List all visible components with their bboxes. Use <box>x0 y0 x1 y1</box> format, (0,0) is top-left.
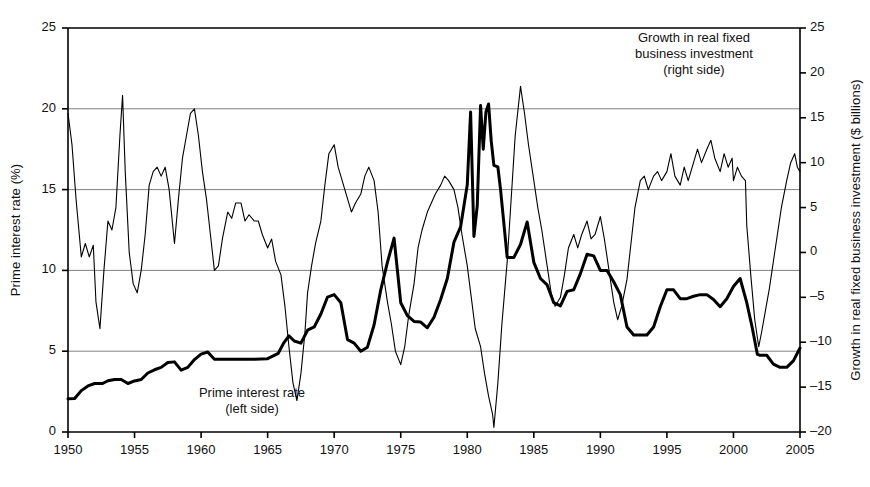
prime-annotation-line-2: (left side) <box>172 401 332 417</box>
series-line-1 <box>68 86 800 427</box>
x-tick-2000: 2000 <box>708 442 758 457</box>
x-tick-2005: 2005 <box>775 442 825 457</box>
x-tick-1960: 1960 <box>176 442 226 457</box>
prime-series-annotation: Prime interest rate (left side) <box>172 385 332 417</box>
y-tick-right-3: –5 <box>810 288 854 303</box>
x-tick-1975: 1975 <box>376 442 426 457</box>
series-line-0 <box>68 104 800 399</box>
y-tick-right-4: 0 <box>810 243 854 258</box>
y-tick-left-5: 5 <box>16 342 56 357</box>
y-tick-right-6: 10 <box>810 154 854 169</box>
x-tick-1985: 1985 <box>509 442 559 457</box>
data-series-group <box>68 86 800 427</box>
y-tick-left-15: 15 <box>16 181 56 196</box>
x-tick-1995: 1995 <box>642 442 692 457</box>
x-tick-1950: 1950 <box>43 442 93 457</box>
y-tick-left-25: 25 <box>16 19 56 34</box>
y-tick-right-7: 15 <box>810 109 854 124</box>
y-tick-right-2: –10 <box>810 333 854 348</box>
x-tick-1965: 1965 <box>243 442 293 457</box>
y-tick-right-9: 25 <box>810 19 854 34</box>
x-tick-1980: 1980 <box>442 442 492 457</box>
x-tick-1970: 1970 <box>309 442 359 457</box>
x-tick-1955: 1955 <box>110 442 160 457</box>
y-tick-right-8: 20 <box>810 64 854 79</box>
y-tick-right-0: –20 <box>810 423 854 438</box>
investment-series-annotation: Growth in real fixed business investment… <box>604 30 784 78</box>
x-tick-1990: 1990 <box>575 442 625 457</box>
y-tick-left-0: 0 <box>16 423 56 438</box>
prime-annotation-line-1: Prime interest rate <box>172 385 332 401</box>
y-tick-right-5: 5 <box>810 199 854 214</box>
y-tick-left-10: 10 <box>16 261 56 276</box>
axis-frame <box>68 28 800 432</box>
investment-annotation-line-2: business investment <box>604 46 784 62</box>
investment-annotation-line-1: Growth in real fixed <box>604 30 784 46</box>
y-tick-right-1: –15 <box>810 378 854 393</box>
investment-annotation-line-3: (right side) <box>604 62 784 78</box>
chart-figure: Prime interest rate (%) Growth in real f… <box>0 0 870 487</box>
y-tick-left-20: 20 <box>16 100 56 115</box>
